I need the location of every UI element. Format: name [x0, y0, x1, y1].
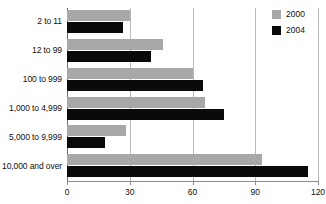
- bar-2000: [67, 68, 193, 79]
- x-axis-tick-label: 60: [178, 187, 208, 197]
- bar-2000: [67, 10, 130, 21]
- x-axis-tick-label: 0: [52, 187, 82, 197]
- bar-2004: [67, 51, 151, 62]
- y-axis-category-label: 5,000 to 9,999: [0, 132, 62, 142]
- bar-group: [67, 97, 318, 126]
- bar-2004: [67, 22, 123, 33]
- bar-group: [67, 39, 318, 68]
- legend-label: 2000: [286, 10, 305, 19]
- x-axis-tick-label: 30: [115, 187, 145, 197]
- bar-2000: [67, 39, 163, 50]
- x-axis-tick-label: 120: [303, 187, 326, 197]
- legend-swatch-icon: [272, 26, 281, 35]
- bar-2004: [67, 137, 105, 148]
- legend-label: 2004: [286, 26, 305, 35]
- y-axis-category-label: 100 to 999: [0, 74, 62, 84]
- y-axis-category-label: 2 to 11: [0, 16, 62, 26]
- bar-2004: [67, 166, 308, 177]
- x-axis-tick: [318, 181, 319, 185]
- bar-2000: [67, 154, 262, 165]
- bar-2004: [67, 109, 224, 120]
- bar-chart: 2 to 1112 to 99100 to 9991,000 to 4,9995…: [0, 0, 326, 204]
- chart-legend: 20002004: [272, 9, 322, 41]
- legend-swatch-icon: [272, 10, 281, 19]
- bar-2000: [67, 97, 205, 108]
- y-axis-category-label: 12 to 99: [0, 45, 62, 55]
- y-axis-category-label: 10,000 and over: [0, 161, 62, 171]
- legend-item[interactable]: 2004: [272, 25, 322, 36]
- bar-2004: [67, 80, 203, 91]
- bar-group: [67, 154, 318, 183]
- legend-item[interactable]: 2000: [272, 9, 322, 20]
- bar-group: [67, 125, 318, 154]
- y-axis-category-label: 1,000 to 4,999: [0, 103, 62, 113]
- bar-group: [67, 68, 318, 97]
- x-axis-tick-label: 90: [240, 187, 270, 197]
- bar-2000: [67, 125, 126, 136]
